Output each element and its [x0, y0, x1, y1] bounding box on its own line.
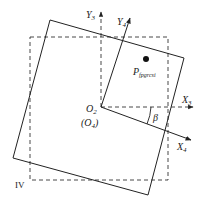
- origin-o4-label: (O4): [81, 117, 99, 130]
- quadrant-iv-label: IV: [15, 180, 25, 190]
- rotated-frame: [13, 20, 184, 195]
- beta-label: β: [152, 112, 158, 123]
- y3-label: Y3: [86, 9, 96, 22]
- beta-angle-arc: [147, 107, 151, 124]
- y4-axis: [101, 18, 130, 107]
- origin-o2-label: O2: [86, 103, 97, 116]
- x4-label: X4: [176, 141, 187, 154]
- point-p-label: Pfpgrcsi: [132, 66, 156, 78]
- y4-label: Y4: [117, 16, 127, 29]
- coordinate-rotation-diagram: Y3 Y4 X3 X4 O2 (O4) β Pfpgrcsi IV: [0, 0, 206, 205]
- x4-axis: [101, 107, 191, 140]
- x3-label: X3: [181, 94, 192, 107]
- point-p-marker: [143, 56, 149, 62]
